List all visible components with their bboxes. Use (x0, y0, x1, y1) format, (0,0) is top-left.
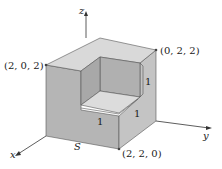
point-220-dot (118, 148, 121, 151)
notch-edge-label-front: 1 (97, 117, 103, 127)
notch-back-wall (100, 57, 140, 97)
surface-label: S (74, 142, 81, 152)
point-220-label: (2, 2, 0) (122, 149, 162, 159)
point-022-dot (155, 49, 158, 52)
x-axis-label: x (10, 150, 16, 160)
point-022-label: (0, 2, 2) (160, 46, 200, 56)
z-axis-label: z (79, 6, 84, 16)
y-axis (156, 121, 209, 128)
point-202-label: (2, 0, 2) (4, 61, 44, 71)
point-202-dot (45, 64, 48, 67)
x-axis (18, 136, 46, 154)
y-axis-label: y (203, 131, 209, 141)
notch-edge-label-side: 1 (134, 109, 140, 119)
cube-diagram (0, 0, 222, 169)
notch-edge-label-vertical: 1 (145, 77, 151, 87)
z-axis-arrow-icon (84, 11, 88, 16)
